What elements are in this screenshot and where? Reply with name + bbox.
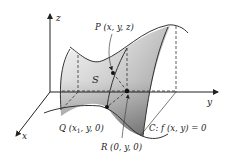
surface-label: S <box>92 74 99 85</box>
point-p <box>111 71 115 75</box>
x-axis <box>16 92 50 136</box>
x-axis-label: x <box>22 131 27 141</box>
curve-c-label: C: f (x, y) = 0 <box>149 123 207 133</box>
point-r <box>125 89 129 93</box>
z-axis-label: z <box>55 13 61 23</box>
surface-diagram: z y x S P (x, y, z) Q (x1, y, 0) R (0, y… <box>0 0 233 165</box>
point-p-label: P (x, y, z) <box>94 22 134 32</box>
y-axis-label: y <box>206 97 213 107</box>
point-q-label: Q (x1, y, 0) <box>59 123 104 134</box>
point-q <box>105 105 109 109</box>
point-r-label: R (0, y, 0) <box>100 142 142 152</box>
